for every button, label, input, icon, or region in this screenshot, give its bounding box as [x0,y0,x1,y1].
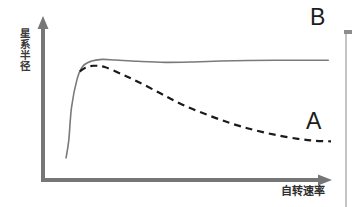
x-axis-label: 自转速率 [281,186,325,198]
curve-b-solid-line [66,59,328,157]
right-panel-border [345,30,347,207]
y-axis-arrow-icon [38,16,49,29]
y-axis-label: 星系半径 [16,28,30,72]
galaxy-radius-rotation-chart: 星系半径 自转速率 B A [0,0,352,207]
curve-a-dashed-line [80,66,331,142]
x-axis-arrow-icon [318,175,332,186]
chart-canvas [0,0,352,207]
right-panel-border-cap [344,30,352,34]
curve-label-a: A [306,110,321,133]
curve-label-b: B [310,6,325,29]
